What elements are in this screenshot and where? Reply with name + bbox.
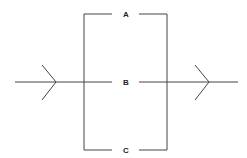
label-a: A [123, 10, 129, 19]
parallel-diagram: A B C [0, 0, 247, 158]
label-c: C [123, 146, 129, 155]
label-b: B [123, 78, 129, 87]
